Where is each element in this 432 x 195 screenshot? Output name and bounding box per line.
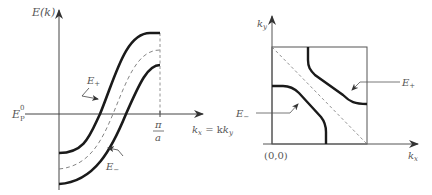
e-plus-pointer xyxy=(82,88,98,99)
e-plus-band-curve xyxy=(59,33,160,153)
k-axis-label: kx = kky xyxy=(192,124,234,137)
e-plus-fermi-surface xyxy=(308,47,367,104)
half-filled-diagonal xyxy=(272,47,367,144)
origin-label: (0,0) xyxy=(264,150,288,161)
a-label: a xyxy=(155,132,161,143)
e-minus-pointer-right xyxy=(256,104,298,113)
dispersion-plot xyxy=(25,10,203,190)
e-plus-label-right: E+ xyxy=(401,77,415,90)
pi-label: π xyxy=(154,119,162,130)
e-minus-label-right: E− xyxy=(235,108,249,121)
fermi-energy-label: E xyxy=(11,108,20,121)
fermi-energy-sup: 0 xyxy=(20,104,24,112)
ky-axis-label: ky xyxy=(257,18,268,31)
e-minus-fermi-surface xyxy=(272,86,326,144)
band-structure-figure: E(k) E 0 P π a kx = kky E+ E− ky xyxy=(0,0,432,195)
fermi-surface-plot xyxy=(256,16,418,144)
e-plus-label-left: E+ xyxy=(86,75,100,88)
e-plus-pointer-right xyxy=(352,82,400,90)
energy-axis-label: E(k) xyxy=(31,6,55,19)
e-minus-label-left: E− xyxy=(105,161,119,174)
kx-axis-label: kx xyxy=(408,150,418,163)
fermi-energy-sub: P xyxy=(20,115,25,123)
